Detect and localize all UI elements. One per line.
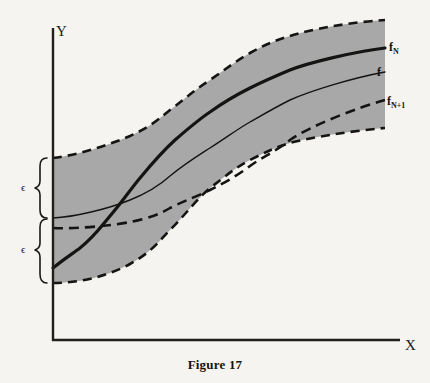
- curve-label-f-n: fN: [389, 41, 399, 56]
- curve-label-f-n-plus-1: fN+1: [387, 95, 405, 110]
- curve-label-f-base: f: [377, 65, 381, 79]
- curve-label-f-n-subscript: N: [393, 47, 399, 56]
- y-axis-label: Y: [56, 24, 67, 39]
- figure-canvas: [0, 0, 430, 383]
- figure-17-container: Y X fN f fN+1 ϵ ϵ Figure 17: [0, 0, 430, 383]
- epsilon-label-lower: ϵ: [21, 244, 25, 255]
- x-axis-label: X: [405, 338, 416, 353]
- epsilon-brace-upper: [35, 158, 47, 218]
- curve-label-f-n-plus-1-subscript: N+1: [391, 101, 405, 110]
- epsilon-brace-lower: [35, 219, 47, 283]
- epsilon-label-upper: ϵ: [21, 182, 25, 193]
- figure-caption: Figure 17: [0, 357, 430, 373]
- curve-label-f: f: [377, 66, 381, 78]
- epsilon-band-region: [53, 20, 385, 283]
